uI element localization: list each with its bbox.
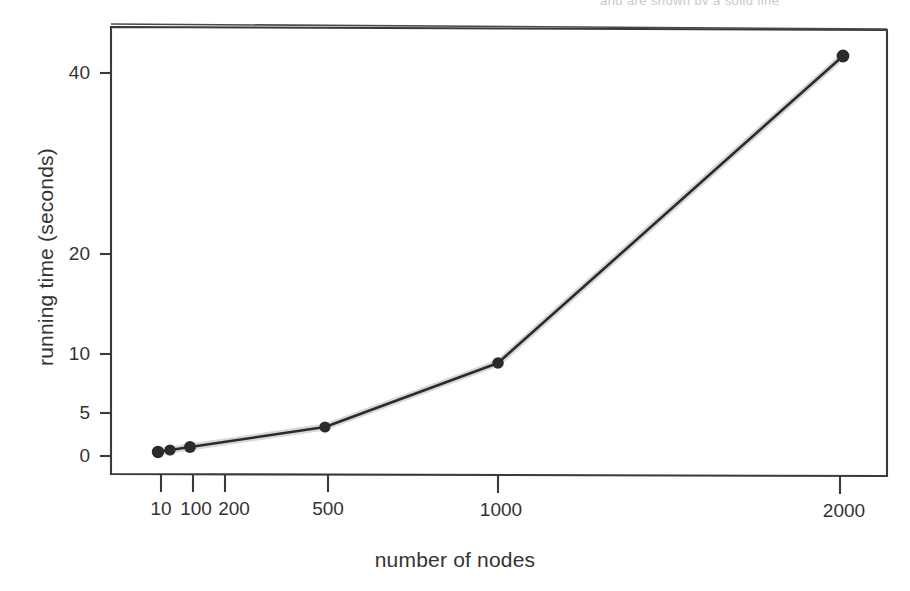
data-point-100 [164, 444, 175, 455]
y-tick-label-40: 40 [40, 62, 90, 84]
x-tick-label-100: 100 [180, 498, 212, 520]
plot-frame [111, 24, 887, 476]
data-point-500 [319, 421, 330, 432]
x-tick-label-10: 10 [150, 498, 171, 520]
data-point-2000 [837, 50, 850, 63]
x-axis-ticks [161, 474, 840, 494]
y-axis-title: running time (seconds) [34, 107, 58, 407]
x-tick-label-200: 200 [218, 498, 250, 520]
x-tick-label-500: 500 [312, 498, 344, 520]
data-point-200 [184, 441, 196, 453]
data-line [158, 56, 843, 452]
data-point-1000 [492, 357, 504, 369]
data-point-markers [152, 50, 850, 459]
x-tick-label-1000: 1000 [480, 499, 522, 521]
y-tick-label-0: 0 [40, 445, 90, 467]
data-point-10 [152, 446, 164, 458]
x-axis-title: number of nodes [0, 548, 910, 572]
x-tick-label-2000: 2000 [823, 500, 865, 522]
data-line-halo [158, 56, 843, 452]
chart-figure: and are shown by a solid line [0, 0, 910, 591]
plot-canvas [0, 0, 910, 591]
